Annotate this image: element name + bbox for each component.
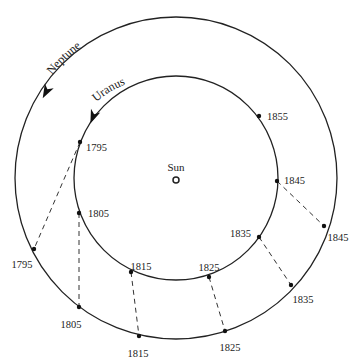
neptune-year-label: 1825 xyxy=(220,342,241,353)
uranus-year-label: 1815 xyxy=(131,261,152,272)
uranus-point-1825 xyxy=(207,275,211,279)
uranus-point-1845 xyxy=(275,179,279,183)
neptune-year-label: 1795 xyxy=(12,259,33,270)
uranus-point-1835 xyxy=(257,235,261,239)
uranus-label: Uranus xyxy=(89,74,127,104)
connection-line-1795 xyxy=(34,142,80,249)
uranus-year-label: 1835 xyxy=(230,228,251,239)
neptune-year-label: 1815 xyxy=(128,348,149,359)
neptune-point-1815 xyxy=(137,334,141,338)
uranus-point-1795 xyxy=(78,140,82,144)
neptune-year-label: 1845 xyxy=(328,232,349,243)
connection-line-1815 xyxy=(131,272,139,336)
uranus-year-label: 1855 xyxy=(267,111,288,122)
neptune-point-1825 xyxy=(223,329,227,333)
uranus-year-label: 1845 xyxy=(284,175,305,186)
uranus-year-label: 1825 xyxy=(199,262,220,273)
neptune-point-1795 xyxy=(32,247,36,251)
sun-label: Sun xyxy=(167,161,185,173)
direction-arrows xyxy=(38,83,100,125)
neptune-point-1805 xyxy=(77,305,81,309)
uranus-arrow-icon xyxy=(86,109,101,126)
uranus-point-1855 xyxy=(257,114,261,118)
connection-line-1845 xyxy=(277,181,324,226)
uranus-year-label: 1805 xyxy=(88,208,109,219)
neptune-year-label: 1805 xyxy=(61,319,82,330)
uranus-orbit xyxy=(74,76,278,280)
neptune-point-1845 xyxy=(322,224,326,228)
uranus-year-label: 1795 xyxy=(86,142,107,153)
orbit-diagram: Neptune Uranus Sun 179518051815182518351… xyxy=(0,0,356,364)
connection-line-1835 xyxy=(259,237,291,285)
neptune-point-1835 xyxy=(289,283,293,287)
neptune-year-label: 1835 xyxy=(293,294,314,305)
uranus-point-1805 xyxy=(77,211,81,215)
connection-line-1825 xyxy=(209,277,225,331)
sun-icon xyxy=(173,177,179,183)
neptune-label: Neptune xyxy=(44,38,84,77)
